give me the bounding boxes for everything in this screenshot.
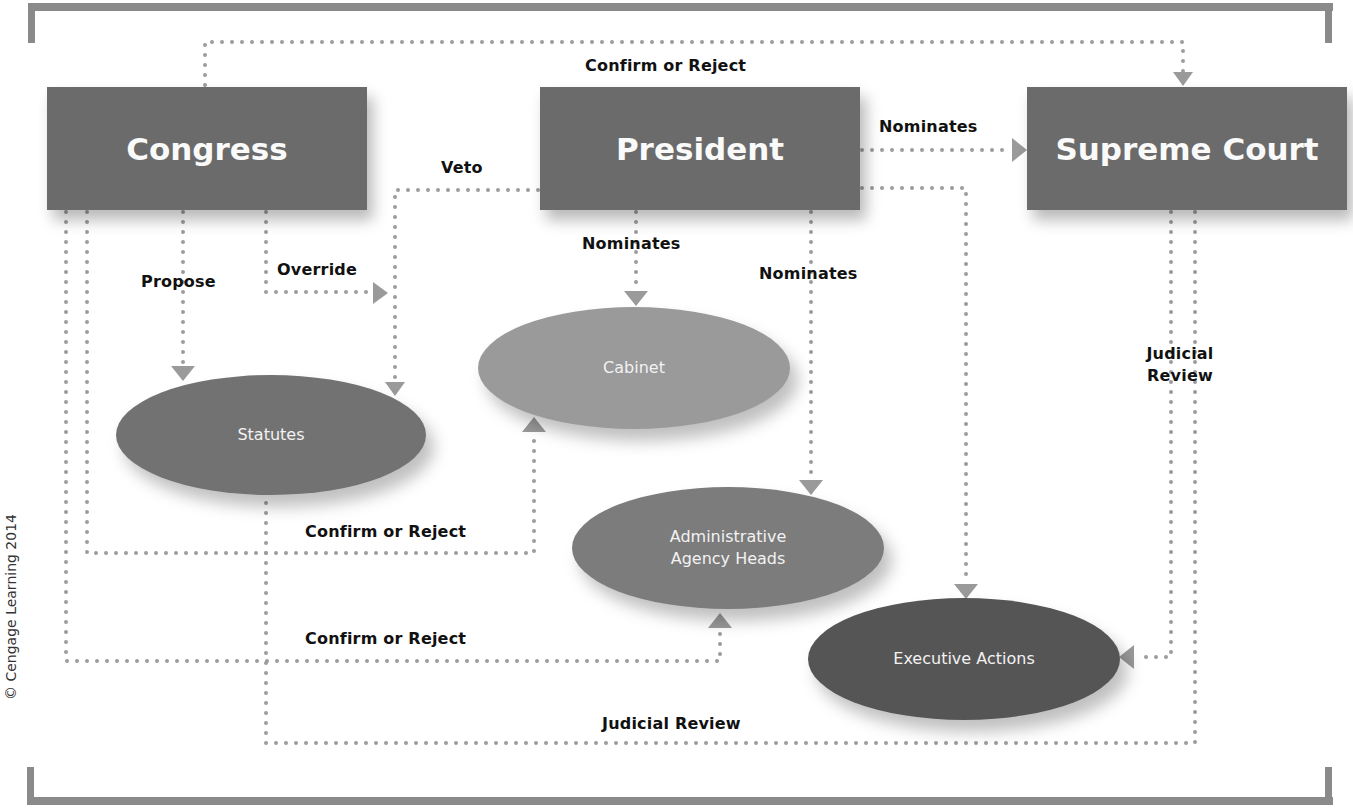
congress-label: Congress — [126, 131, 288, 167]
statutes-ellipse: Statutes — [116, 375, 426, 495]
agency-heads-ellipse: Administrative Agency Heads — [572, 487, 884, 609]
label-judicial-review-right-line1: Judicial — [1146, 344, 1213, 363]
supreme-court-label: Supreme Court — [1055, 131, 1318, 167]
label-judicial-review-right-line2: Review — [1147, 366, 1213, 385]
label-veto: Veto — [441, 158, 483, 177]
cabinet-label: Cabinet — [603, 357, 665, 379]
president-box: President — [540, 87, 860, 210]
label-nominates-court: Nominates — [879, 117, 978, 136]
agency-heads-label-line2: Agency Heads — [671, 548, 786, 570]
label-override: Override — [277, 260, 357, 279]
agency-heads-label-line1: Administrative — [670, 526, 786, 548]
label-judicial-review-right: Judicial Review — [1140, 343, 1220, 387]
separation-of-powers-diagram: .dot { fill:none; stroke:#9c9c9c; stroke… — [0, 0, 1353, 809]
label-confirm-reject-top: Confirm or Reject — [585, 56, 746, 75]
label-propose: Propose — [141, 272, 216, 291]
cabinet-ellipse: Cabinet — [478, 307, 790, 429]
statutes-label: Statutes — [237, 424, 304, 446]
label-nominates-cabinet: Nominates — [582, 234, 681, 253]
president-label: President — [616, 131, 784, 167]
executive-actions-label: Executive Actions — [893, 648, 1034, 670]
edge-override — [266, 212, 372, 292]
supreme-court-box: Supreme Court — [1027, 87, 1347, 210]
edge-review-exec — [1136, 212, 1171, 657]
label-confirm-reject-cabinet: Confirm or Reject — [305, 522, 466, 541]
executive-actions-ellipse: Executive Actions — [808, 598, 1120, 720]
label-judicial-review-bottom: Judicial Review — [602, 714, 741, 733]
label-confirm-reject-agency: Confirm or Reject — [305, 629, 466, 648]
copyright-notice: © Cengage Learning 2014 — [3, 514, 19, 700]
edge-president-exec — [862, 188, 966, 582]
congress-box: Congress — [47, 87, 367, 210]
label-nominates-agency: Nominates — [759, 264, 858, 283]
